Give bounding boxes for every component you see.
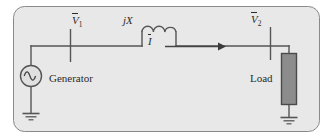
label-v2-subscript: 2 — [258, 19, 262, 28]
label-v2: V2 — [251, 14, 261, 25]
label-v1: V1 — [72, 15, 82, 26]
diagram-panel-background — [14, 7, 320, 132]
label-current: I — [148, 36, 152, 47]
circuit-schematic-svg — [0, 0, 330, 138]
circuit-diagram-figure: V1 jX I V2 Generator Load — [0, 0, 330, 138]
label-reactance: jX — [123, 15, 133, 26]
ac-source-symbol — [21, 66, 42, 87]
label-generator: Generator — [49, 73, 93, 84]
label-v1-symbol: V — [72, 15, 79, 26]
label-v1-subscript: 1 — [79, 20, 83, 29]
label-load: Load — [250, 73, 273, 84]
label-v2-symbol: V — [251, 14, 258, 25]
label-current-symbol: I — [148, 36, 152, 47]
load-block-symbol — [282, 54, 297, 105]
